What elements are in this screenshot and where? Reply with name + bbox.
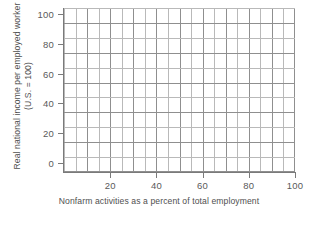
chart-container: 0 20 40 60 80 100 20 40 60 80 100 Nonfar…: [0, 0, 318, 230]
gridline-vertical: [110, 8, 111, 172]
gridline-horizontal: [64, 23, 295, 24]
y-axis-tick: [58, 44, 64, 45]
gridline-horizontal: [64, 38, 295, 39]
y-axis-tick: [58, 14, 64, 15]
gridline-horizontal: [64, 112, 295, 113]
gridline-vertical: [76, 8, 77, 172]
y-axis-title-line-2: (U.S. = 100): [23, 0, 34, 176]
gridline-horizontal: [64, 127, 295, 128]
y-axis-line: [63, 8, 64, 173]
x-axis-title: Nonfarm activities as a percent of total…: [0, 196, 318, 206]
y-axis-title-line-1: Real national income per employed worker: [12, 3, 22, 170]
gridline-vertical: [168, 8, 169, 172]
gridline-vertical: [249, 8, 250, 172]
gridline-vertical: [180, 8, 181, 172]
plot-area: [64, 8, 295, 172]
gridline-horizontal: [64, 97, 295, 98]
x-axis-tick: [249, 173, 250, 178]
gridline-horizontal: [64, 8, 295, 9]
gridline-vertical: [145, 8, 146, 172]
gridline-vertical: [260, 8, 261, 172]
gridline-vertical: [203, 8, 204, 172]
x-axis-tick-label: 60: [183, 181, 223, 191]
gridline-vertical: [237, 8, 238, 172]
x-axis-line: [63, 172, 296, 173]
gridline-vertical: [294, 8, 295, 172]
gridline-horizontal: [64, 53, 295, 54]
gridline-vertical: [133, 8, 134, 172]
gridline-vertical: [156, 8, 157, 172]
x-axis-tick: [156, 173, 157, 178]
gridline-vertical: [87, 8, 88, 172]
gridline-vertical: [214, 8, 215, 172]
gridline-vertical: [191, 8, 192, 172]
x-axis-tick: [203, 173, 204, 178]
x-axis-tick-label: 20: [90, 181, 130, 191]
gridline-vertical: [272, 8, 273, 172]
y-axis-tick: [58, 74, 64, 75]
y-axis-title: Real national income per employed worker…: [12, 0, 34, 176]
x-axis-tick: [110, 173, 111, 178]
gridline-horizontal: [64, 142, 295, 143]
x-axis-tick: [295, 173, 296, 178]
gridline-horizontal: [64, 83, 295, 84]
x-axis-tick-label: 40: [136, 181, 176, 191]
gridline-horizontal: [64, 157, 295, 158]
y-axis-tick: [58, 163, 64, 164]
y-axis-tick: [58, 103, 64, 104]
y-axis-tick: [58, 133, 64, 134]
gridline-vertical: [283, 8, 284, 172]
x-axis-tick-label: 100: [275, 181, 315, 191]
gridline-vertical: [226, 8, 227, 172]
gridline-vertical: [99, 8, 100, 172]
gridline-vertical: [64, 8, 65, 172]
gridline-horizontal: [64, 68, 295, 69]
x-axis-tick-label: 80: [229, 181, 269, 191]
gridline-vertical: [122, 8, 123, 172]
